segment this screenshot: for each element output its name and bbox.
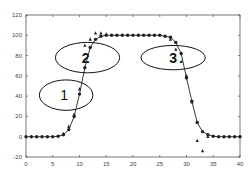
data-point-circle <box>126 34 129 37</box>
annotation-label-1: 1 <box>60 87 68 103</box>
data-point-circle <box>238 135 241 138</box>
data-point-circle <box>163 35 166 38</box>
data-point-circle <box>94 38 97 41</box>
y-tick-label: 0 <box>19 134 23 140</box>
data-point-circle <box>115 34 118 37</box>
data-point-circle <box>89 46 92 49</box>
data-point-circle <box>153 34 156 37</box>
y-tick-label: 80 <box>15 53 22 59</box>
data-point-circle <box>83 66 86 69</box>
annotation-label-3: 3 <box>169 50 177 66</box>
data-point-circle <box>158 34 161 37</box>
data-point-circle <box>131 34 134 37</box>
data-point-triangle <box>99 31 102 34</box>
data-point-circle <box>233 135 236 138</box>
x-tick-label: 30 <box>183 161 190 167</box>
data-point-circle <box>147 34 150 37</box>
data-point-circle <box>121 34 124 37</box>
data-point-circle <box>174 41 177 44</box>
x-tick-label: 25 <box>156 161 163 167</box>
data-point-circle <box>51 135 54 138</box>
data-point-triangle <box>201 149 204 152</box>
y-tick-label: 20 <box>15 113 22 119</box>
data-point-circle <box>142 34 145 37</box>
data-point-circle <box>30 135 33 138</box>
x-tick-label: 15 <box>103 161 110 167</box>
data-point-circle <box>179 52 182 55</box>
y-tick-label: 40 <box>15 93 22 99</box>
data-point-circle <box>40 135 43 138</box>
x-tick-label: 0 <box>24 161 28 167</box>
data-point-triangle <box>89 37 92 40</box>
data-point-triangle <box>105 32 108 35</box>
data-point-triangle <box>83 43 86 46</box>
y-tick-label: 100 <box>12 32 23 38</box>
x-tick-label: 20 <box>130 161 137 167</box>
data-point-circle <box>222 135 225 138</box>
data-point-circle <box>110 34 113 37</box>
data-point-circle <box>99 35 102 38</box>
data-series <box>24 31 241 152</box>
data-point-circle <box>196 121 199 124</box>
y-tick-label: 120 <box>12 12 23 18</box>
data-point-circle <box>46 135 49 138</box>
data-point-circle <box>217 135 220 138</box>
chart: 0510152025303540-20020406080100120 123 <box>0 0 248 176</box>
data-point-circle <box>78 92 81 95</box>
data-point-circle <box>201 130 204 133</box>
data-point-circle <box>137 34 140 37</box>
data-point-triangle <box>196 139 199 142</box>
x-tick-label: 35 <box>210 161 217 167</box>
x-tick-label: 40 <box>237 161 244 167</box>
data-point-circle <box>212 135 215 138</box>
data-point-circle <box>228 135 231 138</box>
data-point-circle <box>67 128 70 131</box>
data-point-circle <box>56 135 59 138</box>
y-tick-label: -20 <box>13 154 22 160</box>
y-tick-label: 60 <box>15 73 22 79</box>
data-point-triangle <box>94 31 97 34</box>
data-point-circle <box>24 135 27 138</box>
data-point-circle <box>35 135 38 138</box>
x-tick-label: 5 <box>51 161 55 167</box>
x-tick-label: 10 <box>76 161 83 167</box>
